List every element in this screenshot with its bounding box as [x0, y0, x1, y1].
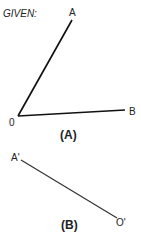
vertex-o-label: 0	[9, 117, 15, 128]
given-label: GIVEN:	[3, 8, 37, 19]
ray-ob	[18, 110, 125, 116]
point-o-prime-label: O'	[116, 217, 126, 228]
point-b-label: B	[129, 106, 136, 117]
ray-oa	[18, 20, 72, 116]
diagram-canvas: GIVEN: A B 0 (A) A' O' (B)	[0, 0, 141, 250]
segment-a-prime-o-prime	[21, 160, 117, 218]
figure-a-angle: A B 0 (A)	[9, 7, 136, 142]
figure-a-caption: (A)	[60, 128, 77, 142]
point-a-label: A	[69, 7, 76, 18]
figure-b-segment: A' O' (B)	[11, 152, 126, 232]
point-a-prime-label: A'	[11, 152, 20, 163]
figure-b-caption: (B)	[61, 218, 78, 232]
